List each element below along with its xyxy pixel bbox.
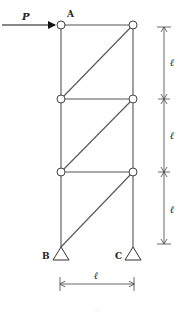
joint-top-right [129,21,137,29]
width-label: ℓ [94,270,98,281]
joint-label-a: A [66,9,75,19]
joint-mid-right [129,95,137,103]
joint-mid-left [57,95,65,103]
joint-low-right [129,168,137,176]
joint-label-c: C [115,251,122,261]
member-diagonal-lower [61,172,133,247]
panel-height-label-3: ℓ [170,204,174,215]
joint-label-b: B [42,251,50,261]
load-label: P [21,11,30,22]
joint-low-left [57,168,65,176]
truss-diagram: P A B C ℓ ℓ ℓ ℓ ... [0,0,182,316]
pin-support-c-icon [125,247,141,260]
member-diagonal-middle [61,99,133,172]
panel-height-label-1: ℓ [170,57,174,68]
joint-a [57,21,65,29]
member-diagonal-upper [61,25,133,99]
figure-caption: ... [94,305,100,312]
panel-height-label-2: ℓ [170,130,174,141]
pin-support-b-icon [53,247,69,260]
